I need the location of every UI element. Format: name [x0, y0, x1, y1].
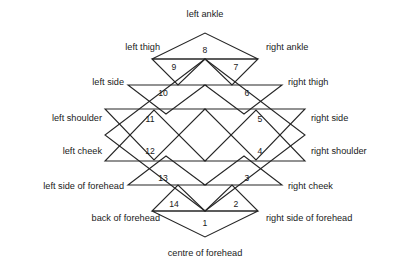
- central-diamond: [105, 59, 305, 211]
- triangle-number-12: 12: [145, 146, 155, 156]
- label-left-side: left side: [92, 78, 124, 87]
- triangle-number-1: 1: [203, 218, 208, 228]
- label-right-side: right side: [311, 114, 348, 123]
- label-right-side-of-forehead: right side of forehead: [266, 214, 352, 223]
- triangle-number-3: 3: [245, 173, 250, 183]
- label-right-shoulder: right shoulder: [311, 147, 367, 156]
- triangle-number-6: 6: [245, 88, 250, 98]
- triangle-5: [205, 109, 305, 160]
- label-left-shoulder: left shoulder: [52, 114, 102, 123]
- triangle-number-4: 4: [258, 146, 263, 156]
- triangle-3: [205, 156, 282, 185]
- triangle-number-10: 10: [158, 88, 168, 98]
- triangle-number-9: 9: [172, 62, 177, 72]
- anatomical-star-diagram: 8 9 7 10 6 11 5 12 4 13 3 14 2 1 left an…: [0, 0, 403, 270]
- label-centre-of-forehead: centre of forehead: [168, 249, 243, 258]
- triangle-number-8: 8: [203, 45, 208, 55]
- triangle-number-13: 13: [158, 173, 168, 183]
- triangle-2: [205, 185, 258, 211]
- triangle-11: [105, 109, 205, 160]
- triangle-4: [205, 110, 305, 161]
- triangle-number-11: 11: [146, 114, 155, 124]
- label-right-cheek: right cheek: [288, 182, 333, 191]
- label-right-ankle: right ankle: [266, 43, 308, 52]
- triangle-7: [205, 59, 258, 85]
- triangle-9: [152, 59, 205, 85]
- label-left-ankle: left ankle: [187, 10, 224, 19]
- triangle-number-2: 2: [234, 199, 239, 209]
- triangle-6: [205, 85, 282, 114]
- label-back-of-forehead: back of forehead: [92, 214, 160, 223]
- diagram-canvas: 8 9 7 10 6 11 5 12 4 13 3 14 2 1: [0, 0, 403, 270]
- triangle-number-14: 14: [169, 199, 179, 209]
- label-right-thigh: right thigh: [288, 78, 328, 87]
- triangle-number-7: 7: [234, 62, 239, 72]
- triangle-12: [105, 110, 205, 161]
- label-left-side-of-forehead: left side of forehead: [43, 182, 124, 191]
- triangle-number-5: 5: [258, 114, 263, 124]
- triangle-outlines: [105, 33, 305, 237]
- label-left-cheek: left cheek: [63, 147, 102, 156]
- label-left-thigh: left thigh: [125, 43, 160, 52]
